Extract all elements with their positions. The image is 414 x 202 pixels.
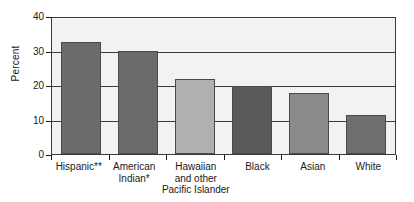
bar-slot: [166, 18, 223, 154]
x-axis-tick-mark: [51, 155, 52, 160]
bar-chart: Percent 403020100 Hispanic**AmericanIndi…: [0, 0, 414, 202]
y-axis-title: Percent: [10, 29, 21, 99]
x-axis-category-label: AmericanIndian*: [106, 161, 161, 196]
y-axis-tick-label: 30: [24, 47, 44, 57]
y-axis-tick-labels: 403020100: [22, 0, 44, 202]
bar-slot: [224, 18, 281, 154]
x-axis-tick-mark: [109, 155, 110, 160]
bar: [289, 93, 329, 154]
x-axis-category-label-line: and other: [162, 173, 230, 185]
bar: [175, 79, 215, 154]
x-axis-category-label-line: Black: [230, 161, 285, 173]
x-axis-category-label-line: Asian: [285, 161, 340, 173]
x-axis-tick-labels: Hispanic**AmericanIndian*Hawaiianand oth…: [51, 161, 396, 196]
x-axis-tick-marks: [51, 155, 396, 160]
x-axis-tick-mark: [281, 155, 282, 160]
x-axis-tick-mark: [339, 155, 340, 160]
y-axis-tick-label: 10: [24, 116, 44, 126]
y-axis-tick-label: 20: [24, 81, 44, 91]
bar-slot: [109, 18, 166, 154]
x-axis-category-label: Asian: [285, 161, 340, 196]
x-axis-category-label: Black: [230, 161, 285, 196]
bar-slot: [52, 18, 109, 154]
x-axis-category-label: White: [341, 161, 396, 196]
bar-series: [52, 18, 395, 154]
bar-slot: [338, 18, 395, 154]
plot-area: [51, 17, 396, 155]
x-axis-category-label-line: Indian*: [106, 173, 161, 185]
y-axis-tick-label: 40: [24, 12, 44, 22]
bar-slot: [281, 18, 338, 154]
x-axis-category-label-line: White: [341, 161, 396, 173]
bar: [118, 51, 158, 155]
x-axis-tick-mark: [396, 155, 397, 160]
bar: [61, 42, 101, 154]
x-axis-category-label: Hawaiianand otherPacific Islander: [162, 161, 230, 196]
y-axis-tick-label: 0: [24, 150, 44, 160]
bar: [346, 115, 386, 154]
x-axis-category-label-line: Pacific Islander: [162, 184, 230, 196]
x-axis-category-label-line: Hispanic**: [51, 161, 106, 173]
x-axis-category-label: Hispanic**: [51, 161, 106, 196]
x-axis-tick-mark: [166, 155, 167, 160]
x-axis-category-label-line: American: [106, 161, 161, 173]
bar: [232, 86, 272, 154]
x-axis-category-label-line: Hawaiian: [162, 161, 230, 173]
x-axis-tick-mark: [224, 155, 225, 160]
